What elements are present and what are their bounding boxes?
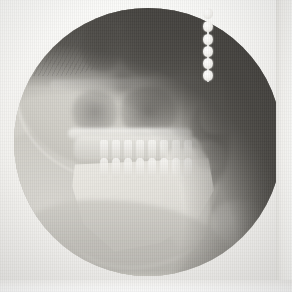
radiograph-viewer xyxy=(0,0,292,292)
bead-marker-4 xyxy=(203,46,213,57)
film-bottom-margin xyxy=(0,280,292,292)
bead-marker-1 xyxy=(203,8,213,19)
bead-chain-marker xyxy=(203,4,213,84)
bead-marker-2 xyxy=(203,21,213,32)
film-right-margin xyxy=(276,0,292,292)
bead-marker-3 xyxy=(203,34,213,45)
unexposed-field-region-outer xyxy=(14,8,282,276)
bead-marker-6 xyxy=(203,70,213,81)
bead-marker-5 xyxy=(203,58,213,69)
circular-collimation-field xyxy=(14,8,282,276)
